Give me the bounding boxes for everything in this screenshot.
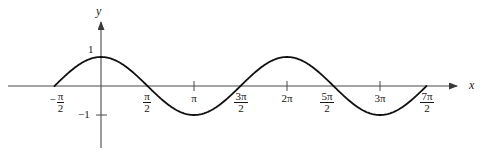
y-tick-label-minus-1: −1 bbox=[78, 109, 90, 120]
x-tick-label-minus-pi-over-2: − π 2 bbox=[40, 91, 74, 114]
fraction-denominator: 2 bbox=[420, 103, 433, 114]
x-tick-label-3pi-over-2: 3π 2 bbox=[224, 91, 258, 114]
cosine-graph-figure: y x 1 −1 − π 2 π 2 π 3π 2 2π 5π 2 bbox=[0, 0, 492, 156]
minus-sign: − bbox=[50, 94, 57, 105]
x-tick-label-pi-over-2: π 2 bbox=[133, 91, 161, 114]
y-axis-label: y bbox=[96, 5, 101, 17]
fraction: 7π 2 bbox=[420, 91, 433, 114]
x-tick-label-2pi: 2π bbox=[277, 93, 297, 104]
fraction-denominator: 2 bbox=[234, 103, 247, 114]
x-axis-label: x bbox=[469, 79, 474, 91]
fraction: 5π 2 bbox=[320, 91, 333, 114]
fraction: 3π 2 bbox=[234, 91, 247, 114]
x-tick-label-7pi-over-2: 7π 2 bbox=[410, 91, 444, 114]
fraction-denominator: 2 bbox=[320, 103, 333, 114]
y-tick-label-1: 1 bbox=[88, 44, 94, 55]
fraction-denominator: 2 bbox=[57, 103, 65, 114]
x-tick-label-3pi: 3π bbox=[370, 93, 390, 104]
x-tick-label-pi: π bbox=[187, 93, 201, 104]
fraction-denominator: 2 bbox=[143, 103, 151, 114]
x-tick-label-5pi-over-2: 5π 2 bbox=[310, 91, 344, 114]
fraction: π 2 bbox=[143, 91, 151, 114]
plot-canvas bbox=[0, 0, 492, 156]
fraction: π 2 bbox=[57, 91, 65, 114]
